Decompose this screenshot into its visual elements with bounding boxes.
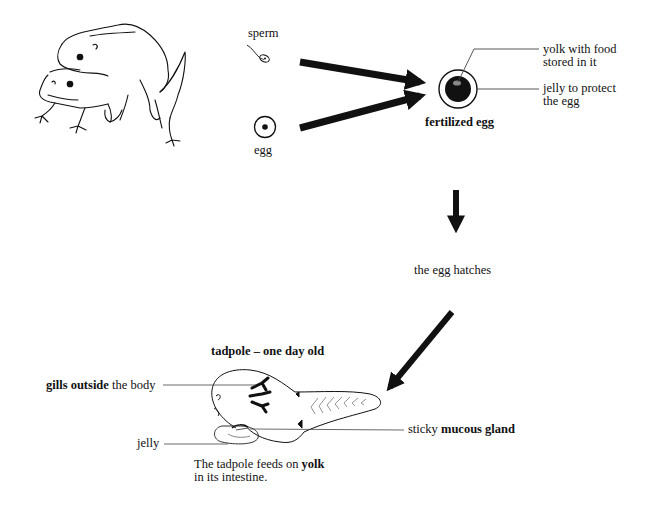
arrow-hatching-to-tadpole	[390, 312, 452, 387]
frog-life-cycle-diagram: sperm egg fertilized egg yolk with food …	[0, 0, 652, 505]
yolk-annotation-line2: stored in it	[543, 56, 596, 69]
arrow-sperm-to-fertilized-egg	[300, 62, 420, 82]
fertilized-egg-icon	[439, 70, 477, 108]
diagram-artwork	[0, 0, 652, 505]
gills-annotation-bold: gills outside	[46, 378, 109, 392]
egg-label: egg	[254, 144, 272, 157]
feeding-note-bold: yolk	[302, 457, 325, 471]
jelly-annotation-line2: the egg	[543, 95, 579, 108]
gills-annotation: gills outside the body	[46, 379, 155, 392]
mucous-gland-bold: mucous gland	[441, 422, 515, 436]
arrow-egg-to-fertilized-egg	[300, 96, 420, 128]
mucous-gland-annotation: sticky mucous gland	[408, 423, 515, 436]
tadpole-icon	[212, 370, 381, 444]
fertilized-egg-label: fertilized egg	[425, 116, 494, 129]
tadpole-title: tadpole – one day old	[211, 345, 324, 358]
egg-icon	[255, 117, 276, 138]
sperm-label: sperm	[248, 27, 279, 40]
feeding-note-line2: in its intestine.	[194, 471, 267, 484]
hatching-label: the egg hatches	[414, 264, 491, 277]
mucous-gland-plain: sticky	[408, 422, 441, 436]
sperm-icon	[247, 45, 270, 64]
mating-frogs-icon	[35, 24, 185, 146]
jelly-tadpole-annotation: jelly	[137, 437, 159, 450]
feeding-note-plain: The tadpole feeds on	[194, 457, 302, 471]
gills-annotation-rest: the body	[109, 378, 156, 392]
mucous-gland-leader-line	[250, 429, 404, 430]
